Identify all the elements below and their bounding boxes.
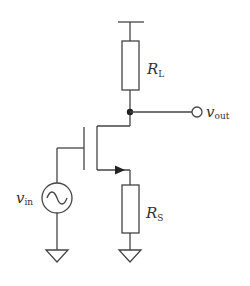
source-resistor [122,185,139,250]
supply-rail [118,22,144,41]
sine-wave-icon [47,192,67,204]
source-arrow-icon [115,166,125,175]
output-label: vout [206,103,230,121]
input-label: vin [16,189,33,207]
source-resistor-label: RS [145,204,163,223]
ground-icon [46,250,68,262]
load-resistor-label: RL [146,60,164,79]
gate-wire [57,148,84,183]
ac-source [42,183,72,250]
circuit-schematic: RL vout vin RS [0,0,250,286]
mosfet-transistor [84,126,130,185]
ground-icon [119,250,141,262]
output-terminal[interactable] [192,107,202,117]
